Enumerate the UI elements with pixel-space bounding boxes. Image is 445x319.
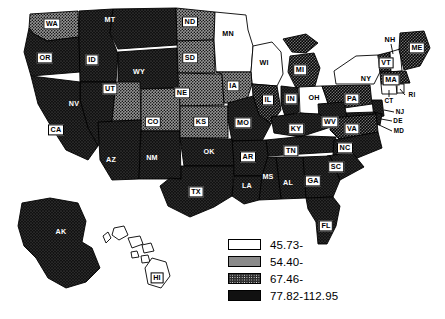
- state-label-KY: KY: [288, 123, 304, 134]
- hawaii-island-4: [142, 243, 154, 253]
- state-label-VT: VT: [379, 57, 394, 68]
- state-label-LA: LA: [242, 182, 252, 189]
- state-label-ME: ME: [409, 42, 425, 53]
- state-label-IN: IN: [285, 93, 298, 104]
- leader-DE: [381, 119, 392, 121]
- legend-swatch-0: [228, 239, 261, 250]
- legend-label-1: 54.40-: [270, 256, 303, 268]
- state-label-NE: NE: [174, 87, 190, 98]
- hawaii-island-5: [131, 251, 139, 258]
- state-label-CO: CO: [145, 116, 161, 127]
- state-label-TN: TN: [283, 145, 298, 156]
- state-label-WV: WV: [321, 116, 338, 127]
- state-label-MD: MD: [394, 128, 404, 134]
- hawaii-island-6: [141, 255, 150, 263]
- us-choropleth-map-figure: WAMTNDMNORIDWYSDWIMINHMEVTNYNVUTNEIAILIN…: [0, 0, 445, 319]
- legend-swatch-2: [228, 273, 261, 284]
- state-label-PA: PA: [344, 93, 359, 104]
- state-MT[interactable]: [110, 8, 177, 49]
- state-label-WA: WA: [43, 18, 60, 29]
- map-canvas: [0, 0, 445, 319]
- state-label-NJ: NJ: [396, 109, 405, 115]
- state-label-DE: DE: [393, 118, 402, 124]
- map-legend: 45.73- 54.40- 67.46- 77.82-112.95: [228, 236, 338, 304]
- legend-row-3[interactable]: 77.82-112.95: [228, 287, 338, 304]
- state-label-MN: MN: [222, 30, 234, 37]
- state-label-CA: CA: [48, 124, 64, 135]
- legend-swatch-1: [228, 256, 261, 267]
- state-MN[interactable]: [214, 12, 253, 72]
- legend-row-0[interactable]: 45.73-: [228, 236, 338, 253]
- state-label-GA: GA: [305, 175, 321, 186]
- hawaii-island-1: [103, 232, 111, 243]
- state-label-VA: VA: [344, 123, 359, 134]
- legend-row-2[interactable]: 67.46-: [228, 270, 338, 287]
- state-MI[interactable]: [283, 34, 320, 88]
- state-label-NV: NV: [69, 100, 79, 107]
- state-label-NC: NC: [337, 142, 353, 153]
- legend-swatch-3: [228, 290, 261, 301]
- legend-row-1[interactable]: 54.40-: [228, 253, 338, 270]
- state-label-MT: MT: [105, 16, 116, 23]
- hawaii-island-2: [112, 226, 128, 240]
- state-label-MA: MA: [383, 74, 400, 85]
- state-label-NM: NM: [146, 154, 158, 161]
- state-label-ND: ND: [182, 16, 198, 27]
- state-AK[interactable]: [18, 198, 100, 288]
- state-label-KS: KS: [193, 116, 209, 127]
- state-label-AL: AL: [283, 179, 293, 186]
- state-label-ID: ID: [86, 54, 99, 65]
- hawaii-island-3: [128, 236, 143, 248]
- state-label-OH: OH: [308, 94, 319, 101]
- state-AZ[interactable]: [98, 120, 141, 180]
- state-label-AK: AK: [56, 228, 67, 235]
- state-label-FL: FL: [319, 220, 333, 231]
- leader-NJ: [384, 110, 394, 112]
- state-label-MO: MO: [234, 117, 251, 128]
- contiguous-states-group: [24, 8, 430, 244]
- state-label-WI: WI: [259, 59, 268, 66]
- state-label-OK: OK: [203, 148, 214, 155]
- state-label-IL: IL: [262, 94, 274, 105]
- state-label-CT: CT: [385, 98, 394, 104]
- leader-MD: [377, 124, 392, 131]
- state-label-HI: HI: [151, 272, 164, 283]
- state-label-AR: AR: [240, 151, 256, 162]
- state-label-WY: WY: [133, 68, 145, 75]
- state-label-MS: MS: [262, 173, 273, 180]
- legend-label-0: 45.73-: [270, 239, 303, 251]
- state-label-SC: SC: [328, 161, 344, 172]
- state-label-OR: OR: [37, 52, 53, 63]
- state-label-AZ: AZ: [106, 156, 116, 163]
- legend-label-3: 77.82-112.95: [270, 290, 338, 302]
- state-TN[interactable]: [266, 136, 336, 156]
- legend-label-2: 67.46-: [270, 273, 303, 285]
- inset-states-group: [18, 198, 170, 288]
- state-label-UT: UT: [102, 83, 117, 94]
- state-label-NH: NH: [385, 36, 396, 43]
- state-label-SD: SD: [182, 52, 198, 63]
- state-label-MI: MI: [293, 64, 307, 75]
- state-label-NY: NY: [361, 75, 371, 82]
- state-label-IA: IA: [227, 80, 240, 91]
- state-label-TX: TX: [189, 186, 204, 197]
- state-label-RI: RI: [409, 92, 416, 98]
- state-NY[interactable]: [334, 55, 380, 84]
